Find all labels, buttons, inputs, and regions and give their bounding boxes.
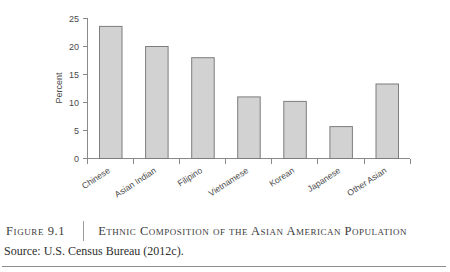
y-tick-label: 5 (74, 126, 79, 136)
bar (100, 26, 123, 158)
bars-group (100, 26, 399, 158)
x-axis-ticks (88, 159, 411, 164)
figure-caption-block: Figure 9.1 Ethnic Composition of the Asi… (0, 216, 450, 272)
bar (146, 47, 169, 159)
y-tick-label: 25 (69, 14, 79, 24)
figure-title: Ethnic Composition of the Asian American… (98, 224, 407, 239)
figure-number: Figure 9.1 (6, 224, 65, 239)
caption-row: Figure 9.1 Ethnic Composition of the Asi… (6, 220, 407, 242)
bar-chart: Percent 25 20 15 10 5 0 (0, 0, 450, 215)
y-tick-label: 20 (69, 42, 79, 52)
y-tick-label: 15 (69, 70, 79, 80)
category-label: Filipino (176, 165, 204, 188)
bar (192, 58, 215, 159)
figure-container: Percent 25 20 15 10 5 0 (0, 0, 450, 272)
category-label: Japanese (305, 165, 342, 194)
caption-divider (83, 221, 84, 241)
category-label: Asian Indian (113, 165, 158, 199)
category-label: Other Asian (345, 165, 388, 198)
chart-svg: Percent 25 20 15 10 5 0 (0, 0, 450, 215)
bottom-rule (2, 266, 446, 267)
category-label: Korean (267, 165, 296, 189)
y-axis-tick-labels: 25 20 15 10 5 0 (69, 14, 79, 164)
y-tick-label: 0 (74, 154, 79, 164)
y-axis-title: Percent (54, 72, 64, 104)
category-label: Chinese (80, 165, 112, 191)
figure-source: Source: U.S. Census Bureau (2012c). (4, 244, 184, 259)
bar (238, 97, 261, 159)
y-axis-ticks (83, 19, 88, 159)
category-label: Vietnamese (207, 165, 251, 198)
bar (330, 127, 353, 159)
bar (284, 101, 307, 158)
bar (376, 84, 399, 159)
x-axis-category-labels: Chinese Asian Indian Filipino Vietnamese… (80, 165, 389, 199)
y-tick-label: 10 (69, 98, 79, 108)
